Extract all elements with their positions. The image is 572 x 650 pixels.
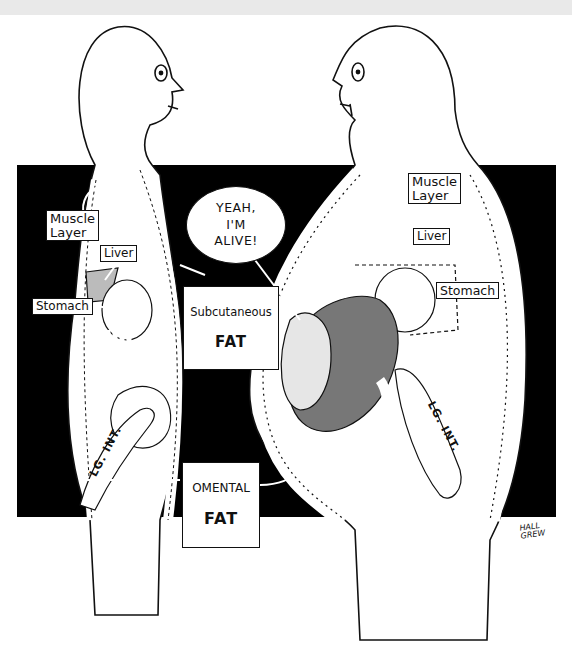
left-stomach-label: Stomach: [32, 298, 93, 315]
right-muscle-layer-label: Muscle Layer: [408, 173, 461, 204]
right-liver-label: Liver: [413, 228, 450, 245]
artist-signature: HALL GREW: [519, 521, 546, 539]
omental-fat-label: OMENTAL FAT: [182, 462, 260, 548]
left-muscle-layer-label: Muscle Layer: [46, 210, 99, 241]
subcutaneous-fat-label: Subcutaneous FAT: [183, 286, 279, 370]
left-liver-label: Liver: [100, 245, 137, 262]
subcutaneous-fat-text: FAT: [186, 335, 276, 351]
illustration: [0, 0, 572, 650]
omental-fat-text: FAT: [185, 511, 257, 528]
speech-bubble: YEAH, I'M ALIVE!: [186, 186, 286, 264]
subcutaneous-label-text: Subcutaneous: [186, 306, 276, 318]
omental-label-text: OMENTAL: [185, 482, 257, 495]
right-stomach-label: Stomach: [436, 282, 499, 299]
